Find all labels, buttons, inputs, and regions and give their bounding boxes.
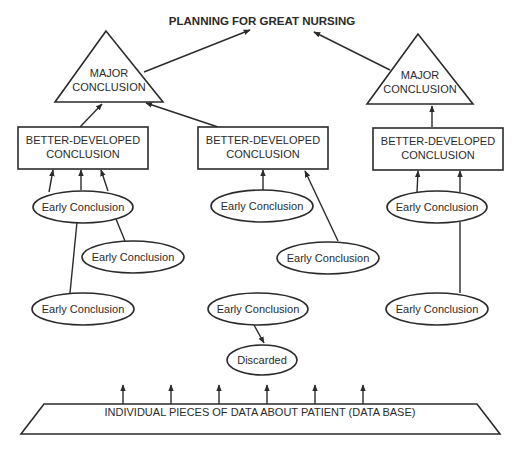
arrow-left-major-to-title: [144, 30, 250, 72]
early-conclusion-right-2: Early Conclusion: [386, 293, 488, 325]
diagram-title: PLANNING FOR GREAT NURSING: [169, 15, 355, 27]
line-early2-to-early1: [116, 219, 125, 241]
arrow-box-left-to-major-left: [80, 104, 102, 127]
major-conclusion-label-line1: MAJOR: [401, 69, 440, 81]
ellipse-label: Early Conclusion: [42, 201, 125, 213]
early-conclusion-middle-1: Early Conclusion: [211, 190, 313, 222]
ellipse-label: Early Conclusion: [92, 251, 175, 263]
major-conclusion-left: MAJOR CONCLUSION: [55, 31, 163, 102]
arrow-right-major-to-title: [314, 32, 390, 70]
ellipse-label: Early Conclusion: [396, 201, 479, 213]
arrow-early-to-box-right-1: [417, 171, 418, 192]
major-conclusion-label-line2: CONCLUSION: [72, 81, 145, 93]
better-developed-middle: BETTER-DEVELOPED CONCLUSION: [198, 127, 328, 169]
arrow-box-middle-to-major-left: [146, 103, 218, 127]
ellipse-label: Early Conclusion: [42, 303, 125, 315]
early-conclusion-right-1: Early Conclusion: [387, 191, 487, 223]
box-label-line1: BETTER-DEVELOPED: [206, 134, 320, 146]
box-label-line1: BETTER-DEVELOPED: [26, 134, 140, 146]
discarded-label: Discarded: [237, 354, 287, 366]
early-conclusion-middle-3: Early Conclusion: [208, 293, 308, 325]
major-conclusion-label-line1: MAJOR: [90, 67, 129, 79]
box-label-line2: CONCLUSION: [46, 148, 119, 160]
database-label: INDIVIDUAL PIECES OF DATA ABOUT PATIENT …: [105, 406, 416, 418]
arrow-early-to-box-left-1: [49, 170, 53, 192]
early-conclusion-left-1: Early Conclusion: [33, 191, 133, 223]
early-conclusion-left-3: Early Conclusion: [32, 293, 134, 325]
box-label-line2: CONCLUSION: [401, 149, 474, 161]
arrow-early-to-box-left-3: [101, 170, 108, 191]
better-developed-right: BETTER-DEVELOPED CONCLUSION: [373, 128, 503, 170]
major-conclusion-label-line2: CONCLUSION: [383, 83, 456, 95]
box-label-line2: CONCLUSION: [226, 148, 299, 160]
box-label-line1: BETTER-DEVELOPED: [381, 135, 495, 147]
ellipse-label: Early Conclusion: [221, 200, 304, 212]
patient-database: INDIVIDUAL PIECES OF DATA ABOUT PATIENT …: [21, 404, 500, 434]
early-conclusion-left-2: Early Conclusion: [82, 241, 184, 273]
discarded-node: Discarded: [227, 345, 297, 375]
better-developed-left: BETTER-DEVELOPED CONCLUSION: [18, 127, 148, 169]
line-early3-to-early1: [70, 222, 77, 293]
major-conclusion-right: MAJOR CONCLUSION: [367, 34, 473, 104]
arrow-early-to-discarded: [254, 325, 264, 343]
ellipse-label: Early Conclusion: [287, 252, 370, 264]
early-conclusion-middle-2: Early Conclusion: [277, 242, 379, 274]
ellipse-label: Early Conclusion: [217, 303, 300, 315]
ellipse-label: Early Conclusion: [396, 303, 479, 315]
nursing-planning-diagram: PLANNING FOR GREAT NURSING MAJOR CONCLUS…: [0, 0, 520, 453]
